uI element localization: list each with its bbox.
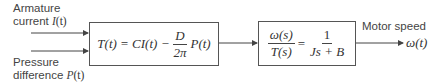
output-signal-omega: ω(t)	[406, 36, 427, 49]
input-label-pressure-difference: Pressure difference P(t)	[13, 56, 84, 82]
torque-equation-block: T(t) = CI(t) − D 2π P(t)	[89, 22, 219, 66]
block-diagram: Armature current I(t) Pressure differenc…	[0, 0, 444, 83]
d-over-2pi-fraction: D 2π	[171, 28, 188, 61]
input-label-armature-current: Armature current I(t)	[13, 2, 67, 28]
omega-over-torque-fraction: ω(s) T(s)	[268, 27, 295, 60]
output-label-motor-speed: Motor speed	[362, 20, 426, 33]
transfer-function-fraction: 1 Js + B	[308, 27, 346, 60]
transfer-function-block: ω(s) T(s) = 1 Js + B	[258, 21, 356, 66]
